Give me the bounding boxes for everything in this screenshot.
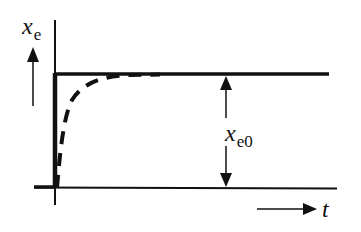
y-axis-label-symbol: x [22,13,33,39]
dashed-response-curve [57,75,160,189]
time-axis-label: t [322,197,329,221]
y-direction-arrowhead-icon [27,47,39,62]
amplitude-arrow-up-head-icon [220,76,232,90]
amplitude-arrow-down-head-icon [220,173,232,187]
step-response-diagram [0,0,361,232]
time-axis [34,188,337,189]
time-direction-arrowhead-icon [303,203,317,215]
y-axis-label-subscript: e [34,25,42,44]
amplitude-label-symbol: x [225,120,236,146]
y-axis-label: xe [22,14,41,38]
amplitude-label: xe0 [225,121,253,145]
amplitude-label-subscript: e0 [237,132,253,151]
